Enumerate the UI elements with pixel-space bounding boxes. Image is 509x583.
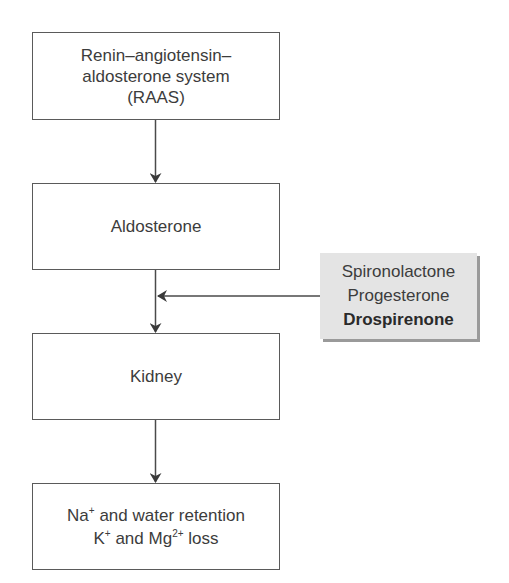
inhibitors-box: Spironolactone Progesterone Drospirenone xyxy=(320,253,477,339)
effects-line-2: K+ and Mg2+ loss xyxy=(94,527,219,550)
node-raas-line-2: aldosterone system xyxy=(82,66,229,87)
inhibitor-spironolactone: Spironolactone xyxy=(342,260,455,284)
node-effects: Na+ and water retention K+ and Mg2+ loss xyxy=(32,483,280,570)
inhibitor-progesterone: Progesterone xyxy=(347,284,449,308)
node-raas-line-1: Renin–angiotensin– xyxy=(81,45,231,66)
node-aldosterone: Aldosterone xyxy=(32,183,280,270)
node-aldosterone-label: Aldosterone xyxy=(111,216,202,237)
effects-line-1: Na+ and water retention xyxy=(67,504,245,527)
node-raas: Renin–angiotensin– aldosterone system (R… xyxy=(32,32,280,120)
node-kidney: Kidney xyxy=(32,333,280,420)
inhibitor-drospirenone: Drospirenone xyxy=(343,308,454,332)
node-raas-line-3: (RAAS) xyxy=(127,87,185,108)
node-kidney-label: Kidney xyxy=(130,366,182,387)
